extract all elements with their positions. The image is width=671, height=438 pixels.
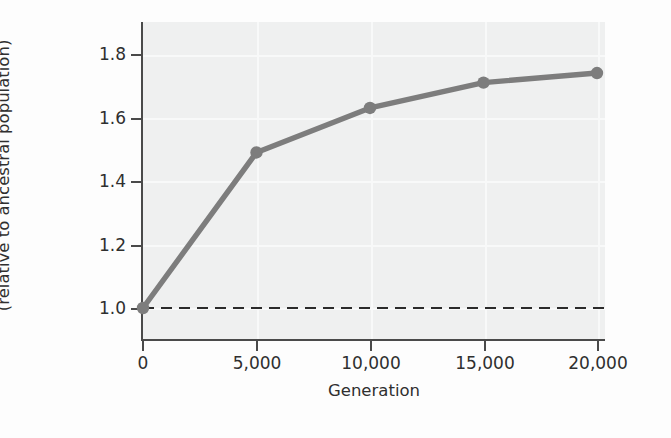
y-tick-mark <box>131 245 141 247</box>
gridline-horizontal <box>143 181 605 183</box>
y-tick-label: 1.4 <box>78 171 126 191</box>
x-tick-label: 10,000 <box>321 353 421 373</box>
y-tick-label: 1.6 <box>78 108 126 128</box>
x-tick-label: 20,000 <box>548 353 648 373</box>
x-tick-label: 15,000 <box>435 353 535 373</box>
figure-root: Population growth rate (relative to ance… <box>0 0 671 438</box>
gridline-horizontal <box>143 308 605 310</box>
y-tick-mark <box>131 118 141 120</box>
gridline-horizontal <box>143 245 605 247</box>
y-tick-mark <box>131 308 141 310</box>
gridline-horizontal <box>143 118 605 120</box>
gridline-vertical <box>257 22 259 340</box>
y-axis-line <box>141 22 143 340</box>
x-tick-label: 5,000 <box>212 353 302 373</box>
gridline-vertical <box>598 22 600 340</box>
y-tick-mark <box>131 181 141 183</box>
x-tick-mark <box>142 341 144 351</box>
gridline-vertical <box>371 22 373 340</box>
x-tick-mark <box>484 341 486 351</box>
x-tick-label: 0 <box>103 353 183 373</box>
y-axis-title-line2: (relative to ancestral population) <box>0 39 16 311</box>
gridline-horizontal <box>143 55 605 57</box>
x-axis-title: Generation <box>143 381 605 400</box>
x-tick-mark <box>370 341 372 351</box>
y-tick-label: 1.0 <box>78 298 126 318</box>
x-tick-mark <box>597 341 599 351</box>
y-tick-mark <box>131 54 141 56</box>
y-tick-label: 1.2 <box>78 235 126 255</box>
plot-area <box>143 22 605 340</box>
gridline-vertical <box>485 22 487 340</box>
x-axis-line <box>141 339 605 341</box>
y-tick-label: 1.8 <box>78 44 126 64</box>
x-tick-mark <box>256 341 258 351</box>
